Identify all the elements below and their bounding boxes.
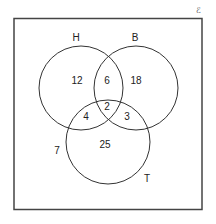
set-h-circle bbox=[39, 46, 123, 130]
set-h-label: H bbox=[72, 33, 79, 43]
region-h-only: 12 bbox=[71, 76, 82, 86]
universal-set-label: ℰ bbox=[196, 6, 201, 16]
region-h-t-only: 4 bbox=[83, 112, 89, 122]
set-b-label: B bbox=[132, 33, 139, 43]
region-b-only: 18 bbox=[130, 76, 141, 86]
region-b-t-only: 3 bbox=[124, 112, 130, 122]
region-t-only: 25 bbox=[99, 140, 110, 150]
region-h-b-t: 2 bbox=[104, 102, 110, 112]
universal-set-frame bbox=[14, 19, 202, 210]
region-outside: 7 bbox=[54, 146, 60, 156]
venn-diagram bbox=[0, 0, 216, 224]
region-h-b-only: 6 bbox=[104, 76, 110, 86]
set-t-label: T bbox=[144, 174, 150, 184]
set-b-circle bbox=[94, 46, 178, 130]
